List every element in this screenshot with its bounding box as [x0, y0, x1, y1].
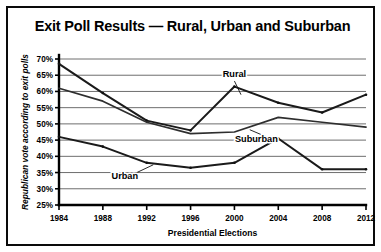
y-tick-label: 50%	[37, 120, 54, 129]
x-tick-label: 2008	[313, 214, 332, 223]
data-point-urban	[321, 168, 324, 171]
data-point-rural	[102, 92, 105, 95]
series-label-suburban: Suburban	[235, 134, 278, 144]
x-tick-label: 1996	[181, 214, 200, 223]
x-tick-label: 1984	[50, 214, 69, 223]
y-tick-label: 70%	[37, 55, 54, 64]
data-point-rural	[233, 85, 236, 88]
x-tick-label: 1992	[138, 214, 157, 223]
x-tick-label: 2000	[225, 214, 244, 223]
chart-figure: Exit Poll Results — Rural, Urban and Sub…	[0, 0, 381, 252]
series-label-urban: Urban	[112, 171, 139, 181]
chart-border-frame: Exit Poll Results — Rural, Urban and Sub…	[6, 6, 375, 246]
data-point-rural	[365, 93, 368, 96]
data-point-rural	[189, 129, 192, 132]
y-tick-label: 30%	[37, 185, 54, 194]
line-chart-plot: 70%65%60%55%50%45%40%35%30%25%1984198819…	[8, 8, 377, 248]
series-label-rural: Rural	[223, 69, 247, 79]
y-tick-label: 55%	[37, 104, 54, 113]
data-point-urban	[189, 166, 192, 169]
x-axis-title: Presidential Elections	[168, 228, 258, 238]
data-point-urban	[58, 136, 61, 139]
x-tick-label: 2012	[357, 214, 376, 223]
x-tick-label: 1988	[94, 214, 113, 223]
y-tick-label: 65%	[37, 71, 54, 80]
data-point-urban	[365, 168, 368, 171]
y-axis-title: Republican vote according to exit polls	[20, 54, 30, 210]
data-point-urban	[145, 162, 148, 165]
data-point-urban	[102, 145, 105, 148]
y-tick-label: 40%	[37, 152, 54, 161]
y-tick-label: 35%	[37, 169, 54, 178]
y-tick-label: 60%	[37, 87, 54, 96]
x-tick-label: 2004	[269, 214, 288, 223]
data-point-urban	[233, 162, 236, 165]
series-line-rural	[59, 64, 366, 131]
data-point-rural	[58, 63, 61, 66]
data-point-rural	[321, 111, 324, 114]
series-line-urban	[59, 137, 366, 169]
data-point-rural	[277, 102, 280, 105]
y-tick-label: 25%	[37, 201, 54, 210]
y-tick-label: 45%	[37, 136, 54, 145]
